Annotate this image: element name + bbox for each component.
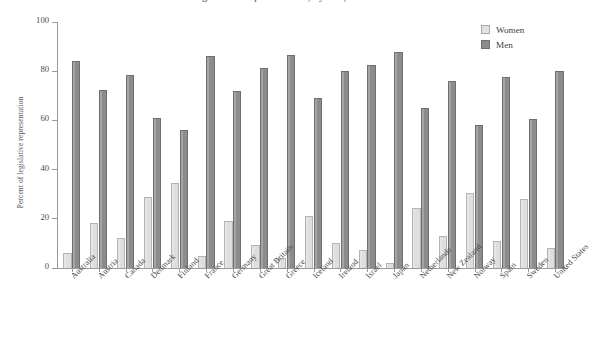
bar-men-new-zealand <box>448 81 456 268</box>
bar-men-japan <box>394 52 402 268</box>
x-axis-tick <box>367 269 368 272</box>
bar-women-netherlands <box>412 208 420 268</box>
bar-group <box>251 22 268 268</box>
bar-women-united-states <box>547 248 555 268</box>
bar-group <box>117 22 134 268</box>
bar-men-france <box>206 56 214 268</box>
bar-group <box>224 22 241 268</box>
x-axis-tick <box>179 269 180 272</box>
y-tick-mark <box>52 218 57 219</box>
x-axis-tick <box>448 269 449 272</box>
bar-men-canada <box>126 75 134 268</box>
x-axis-tick <box>340 269 341 272</box>
x-axis-tick <box>501 269 502 272</box>
bar-group <box>278 22 295 268</box>
bar-group <box>305 22 322 268</box>
bar-group <box>198 22 215 268</box>
x-axis-tick <box>152 269 153 272</box>
bar-men-iceland <box>314 98 322 268</box>
bar-men-greece <box>287 55 295 268</box>
bar-women-israel <box>359 250 367 268</box>
bar-group <box>493 22 510 268</box>
bar-group <box>359 22 376 268</box>
bar-group <box>439 22 456 268</box>
x-axis-tick <box>260 269 261 272</box>
y-tick-mark <box>52 120 57 121</box>
y-tick-label: 100 <box>36 15 49 25</box>
x-axis-tick <box>206 269 207 272</box>
bar-men-ireland <box>341 71 349 268</box>
bar-group <box>144 22 161 268</box>
y-axis-line <box>57 22 58 269</box>
bar-men-denmark <box>153 118 161 268</box>
x-axis-tick <box>314 269 315 272</box>
bar-group <box>520 22 537 268</box>
y-tick-label: 80 <box>40 64 49 74</box>
bar-group <box>386 22 403 268</box>
x-axis-tick <box>99 269 100 272</box>
bar-group <box>332 22 349 268</box>
bar-men-united-states <box>555 71 563 268</box>
x-axis-tick <box>421 269 422 272</box>
bar-men-netherlands <box>421 108 429 268</box>
y-tick-mark <box>52 22 57 23</box>
chart-title: Percent of Legislative Representation, b… <box>0 0 586 2</box>
y-tick-label: 40 <box>40 163 49 173</box>
bar-men-spain <box>502 77 510 268</box>
x-axis-tick <box>72 269 73 272</box>
bar-men-sweden <box>529 119 537 268</box>
bar-women-australia <box>63 253 71 268</box>
legend-item-men: Men <box>481 37 524 52</box>
x-axis-tick <box>394 269 395 272</box>
bar-women-denmark <box>144 197 152 268</box>
bar-group <box>90 22 107 268</box>
plot-area: 020406080100 AustraliaAustriaCanadaDenma… <box>57 22 567 268</box>
bar-group <box>466 22 483 268</box>
bar-women-japan <box>386 263 394 268</box>
legend-swatch-women-icon <box>481 25 490 34</box>
x-axis-tick <box>528 269 529 272</box>
bar-men-austria <box>99 90 107 268</box>
x-axis-tick <box>475 269 476 272</box>
bar-group <box>171 22 188 268</box>
y-tick-label: 0 <box>45 261 49 271</box>
bar-men-israel <box>367 65 375 268</box>
bar-group <box>547 22 564 268</box>
x-axis-tick <box>126 269 127 272</box>
x-axis-tick <box>287 269 288 272</box>
legend-label-women: Women <box>496 25 524 35</box>
y-axis-title: Percent of legislative representation <box>16 38 25 268</box>
y-tick-label: 20 <box>40 212 49 222</box>
legend: Women Men <box>481 22 524 52</box>
bar-group <box>63 22 80 268</box>
bar-group <box>412 22 429 268</box>
legend-item-women: Women <box>481 22 524 37</box>
bar-women-germany <box>224 221 232 268</box>
y-tick-mark <box>52 169 57 170</box>
bar-men-australia <box>72 61 80 268</box>
legend-label-men: Men <box>496 40 513 50</box>
y-tick-label: 60 <box>40 113 49 123</box>
bar-men-great-britain <box>260 68 268 268</box>
bar-men-germany <box>233 91 241 268</box>
bar-women-iceland <box>305 216 313 268</box>
legend-swatch-men-icon <box>481 40 490 49</box>
y-tick-mark <box>52 268 57 269</box>
bar-women-sweden <box>520 199 528 268</box>
x-axis-tick <box>233 269 234 272</box>
bar-men-finland <box>180 130 188 268</box>
y-tick-mark <box>52 71 57 72</box>
x-axis-tick <box>555 269 556 272</box>
